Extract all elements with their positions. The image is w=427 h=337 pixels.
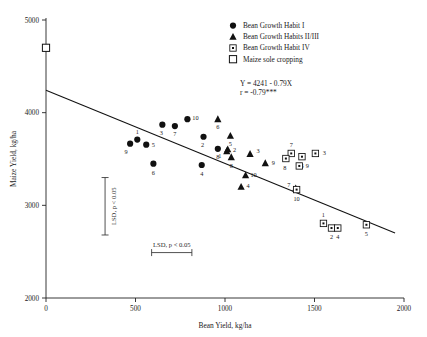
point-label: 2 — [330, 233, 333, 240]
point-label: 2 — [233, 146, 236, 153]
point-label: 9 — [272, 159, 275, 166]
point-label: 1 — [322, 211, 325, 218]
point-label: 2 — [201, 141, 204, 148]
point-label: 10 — [250, 171, 256, 178]
point-label: 7 — [290, 141, 293, 148]
x-tick-label: 1000 — [218, 305, 233, 313]
point-label: 1 — [218, 152, 221, 159]
point-label: 7 — [287, 181, 290, 188]
point-label: 10 — [293, 195, 299, 202]
marker-filled-circle — [172, 123, 178, 129]
point-label: 8 — [283, 164, 286, 171]
y-tick-label: 2000 — [25, 295, 40, 303]
marker-filled-circle — [200, 134, 206, 140]
marker-center-dot — [232, 47, 234, 49]
marker-filled-circle — [150, 161, 156, 167]
point-label: 7 — [173, 130, 176, 137]
marker-filled-circle — [159, 122, 165, 128]
point-label: 9 — [125, 148, 128, 155]
correlation-text: r = -0.79*** — [240, 88, 277, 97]
marker-filled-circle — [184, 116, 190, 122]
point-label: 5 — [152, 141, 155, 148]
marker-center-dot — [365, 224, 367, 226]
legend-label: Bean Growth Habits II/III — [243, 32, 320, 41]
y-tick-label: 4000 — [25, 109, 40, 117]
point-label: 9 — [306, 162, 309, 169]
point-label: 3 — [160, 129, 163, 136]
marker-center-dot — [298, 165, 300, 167]
marker-center-dot — [322, 222, 324, 224]
marker-open-square — [229, 56, 236, 63]
marker-filled-circle — [215, 146, 221, 152]
legend-label: Bean Growth Habit IV — [243, 43, 310, 52]
marker-center-dot — [314, 152, 316, 154]
point-label: 5 — [365, 230, 368, 237]
series-4 — [42, 44, 49, 51]
x-tick-label: 2000 — [397, 305, 412, 313]
x-axis-title: Bean Yield, kg/ha — [199, 321, 253, 330]
point-label: 6 — [152, 169, 155, 176]
regression-equation-text: Y = 4241 - 0.79X — [240, 79, 293, 88]
point-label: 6 — [216, 123, 219, 130]
marker-center-dot — [290, 152, 292, 154]
legend-label: Maize sole cropping — [243, 55, 303, 64]
x-tick-label: 0 — [44, 305, 48, 313]
marker-center-dot — [301, 156, 303, 158]
point-label: 8 — [230, 162, 233, 169]
marker-filled-circle — [134, 136, 140, 142]
scatter-chart: 20003000400050000500100015002000Bean Yie… — [0, 0, 427, 337]
point-label: 5 — [229, 140, 232, 147]
chart-background — [0, 0, 427, 337]
marker-center-dot — [296, 189, 298, 191]
legend-label: Bean Growth Habit I — [243, 21, 305, 30]
marker-filled-circle — [127, 141, 133, 147]
chart-canvas: 20003000400050000500100015002000Bean Yie… — [0, 0, 427, 337]
marker-center-dot — [331, 227, 333, 229]
point-label: 3 — [323, 149, 326, 156]
point-label: 1 — [136, 128, 139, 135]
y-tick-label: 3000 — [25, 202, 40, 210]
marker-center-dot — [285, 158, 287, 160]
lsd-vertical-label: LSD, p < 0.05 — [110, 187, 117, 225]
lsd-horizontal-label: LSD, p < 0.05 — [153, 241, 191, 248]
x-tick-label: 1500 — [307, 305, 322, 313]
point-label: 10 — [192, 114, 198, 121]
marker-filled-circle — [230, 23, 236, 29]
marker-open-square — [42, 44, 49, 51]
marker-filled-circle — [199, 162, 205, 168]
y-axis-title: Maize Yield, kg/ha — [9, 130, 18, 187]
point-label: 3 — [256, 147, 259, 154]
marker-filled-circle — [143, 142, 149, 148]
y-tick-label: 5000 — [25, 17, 40, 25]
marker-center-dot — [337, 227, 339, 229]
x-tick-label: 500 — [130, 305, 141, 313]
